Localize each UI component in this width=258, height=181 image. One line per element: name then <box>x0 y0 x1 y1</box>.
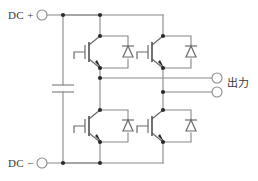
diode-d2-upper-right <box>163 36 197 68</box>
junction-dot <box>61 161 65 165</box>
diode-d2-triangle <box>186 46 196 57</box>
igbt-q4-lower-right <box>137 110 164 142</box>
igbt-q2-upper-right <box>137 36 164 68</box>
diode-d2-bottom-connection <box>163 59 191 68</box>
junction-dot-output-upper <box>98 76 102 80</box>
diode-d3-lower-left <box>100 110 134 142</box>
output-bottom-terminal-circle <box>212 87 222 97</box>
junction-dot-output-lower <box>161 90 165 94</box>
output-label: 出力 <box>227 76 249 90</box>
diode-d1-top-connection <box>100 36 128 46</box>
inverter-circuit-diagram: DC + DC − 出力 <box>0 0 258 181</box>
igbt-q3-gate-lead <box>74 126 85 133</box>
junction-dot <box>61 13 65 17</box>
igbt-q4-collector-lead <box>152 110 163 119</box>
junction-dot <box>161 66 165 70</box>
igbt-q3-lower-left <box>74 110 101 142</box>
igbt-q2-collector-lead <box>152 36 163 45</box>
junction-dot <box>98 13 102 17</box>
schematic-canvas: DC + DC − 出力 <box>0 0 258 181</box>
diode-d1-bottom-connection <box>100 59 128 68</box>
dc-negative-terminal-circle <box>37 158 47 168</box>
diode-d2-top-connection <box>163 36 191 46</box>
junction-dot <box>98 34 102 38</box>
igbt-q1-collector-lead <box>89 36 100 45</box>
output-top-terminal-circle <box>212 73 222 83</box>
igbt-q4-gate-lead <box>137 126 148 133</box>
output-wiring <box>100 73 222 97</box>
diode-d4-triangle <box>186 120 196 131</box>
diode-d4-bottom-connection <box>163 133 191 142</box>
diode-d3-bottom-connection <box>100 133 128 142</box>
diode-d1-triangle <box>123 46 133 57</box>
junction-dot <box>98 66 102 70</box>
dc-negative-label: DC − <box>8 157 34 169</box>
junction-dot <box>161 108 165 112</box>
diode-d1-upper-left <box>100 36 134 68</box>
diode-d3-top-connection <box>100 110 128 120</box>
igbt-q2-gate-lead <box>137 52 148 59</box>
dc-positive-label: DC + <box>8 9 34 21</box>
diode-d4-top-connection <box>163 110 191 120</box>
junction-dot <box>98 108 102 112</box>
igbt-q3-collector-lead <box>89 110 100 119</box>
diode-d4-lower-right <box>163 110 197 142</box>
junction-dot <box>98 161 102 165</box>
igbt-q1-gate-lead <box>74 52 85 59</box>
igbt-q1-upper-left <box>74 36 101 68</box>
dc-positive-terminal-circle <box>37 10 47 20</box>
junction-dot <box>161 34 165 38</box>
junction-dot <box>161 140 165 144</box>
dc-link-capacitor <box>52 15 74 163</box>
diode-d3-triangle <box>123 120 133 131</box>
junction-dot <box>98 140 102 144</box>
